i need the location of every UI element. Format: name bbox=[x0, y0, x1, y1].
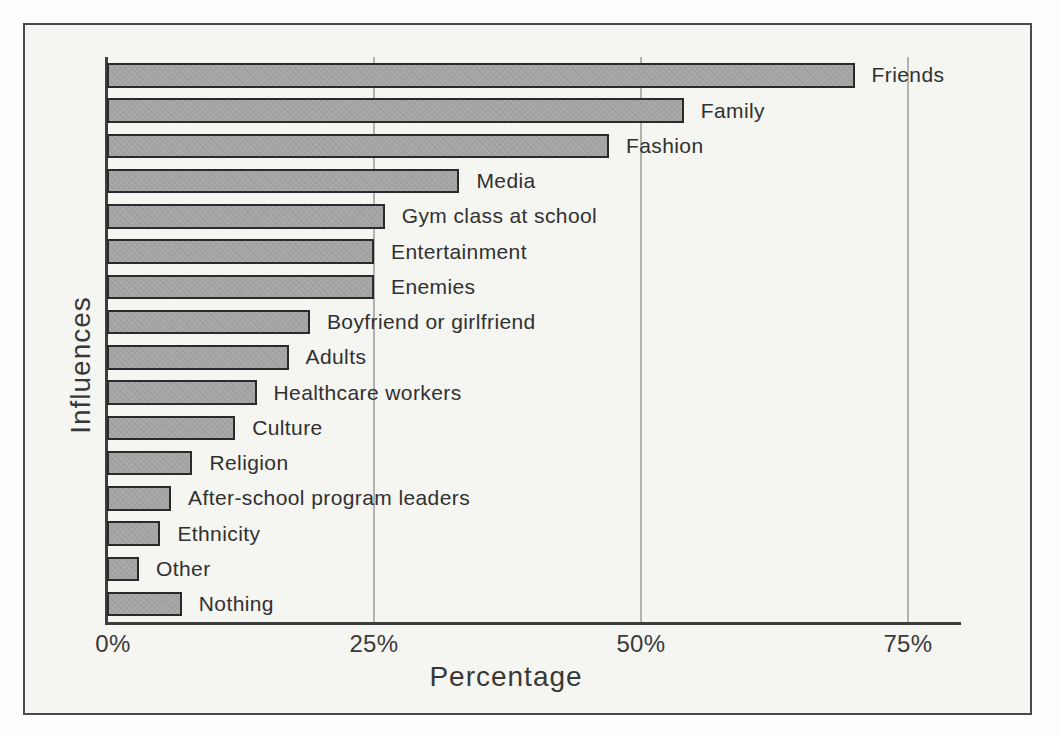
bar-label-friends: Friends bbox=[872, 61, 945, 90]
bar-label-other: Other bbox=[156, 555, 211, 584]
bar-label-adults: Adults bbox=[306, 343, 367, 372]
bar-label-ethnicity: Ethnicity bbox=[177, 519, 260, 548]
bar-label-religion: Religion bbox=[209, 449, 288, 478]
bar-label-nothing: Nothing bbox=[199, 590, 274, 619]
gridline-75 bbox=[907, 57, 909, 624]
bar-label-boyfriend-or-girlfriend: Boyfriend or girlfriend bbox=[327, 308, 536, 337]
bar-adults bbox=[107, 345, 289, 370]
bar-label-healthcare-workers: Healthcare workers bbox=[274, 378, 462, 407]
bar-other bbox=[107, 557, 139, 582]
bar-nothing bbox=[107, 592, 182, 617]
x-tick-25: 25% bbox=[349, 630, 398, 658]
plot-area: FriendsFamilyFashionMediaGym class at sc… bbox=[0, 0, 1061, 736]
x-tick-0: 0% bbox=[95, 630, 131, 658]
bar-culture bbox=[107, 416, 235, 441]
bar-boyfriend-or-girlfriend bbox=[107, 310, 310, 335]
x-tick-50: 50% bbox=[616, 630, 665, 658]
x-tick-75: 75% bbox=[883, 630, 932, 658]
bar-religion bbox=[107, 451, 192, 476]
bar-ethnicity bbox=[107, 521, 160, 546]
bar-label-media: Media bbox=[476, 167, 535, 196]
bar-label-culture: Culture bbox=[252, 414, 323, 443]
figure: FriendsFamilyFashionMediaGym class at sc… bbox=[0, 0, 1061, 736]
bar-family bbox=[107, 98, 684, 123]
bar-label-entertainment: Entertainment bbox=[391, 237, 527, 266]
bar-label-family: Family bbox=[701, 96, 765, 125]
bar-after-school-program-leaders bbox=[107, 486, 171, 511]
bar-fashion bbox=[107, 134, 609, 159]
y-axis-title: Influences bbox=[65, 296, 97, 434]
bar-enemies bbox=[107, 275, 374, 300]
bar-media bbox=[107, 169, 459, 194]
bar-friends bbox=[107, 63, 855, 88]
bar-healthcare-workers bbox=[107, 380, 257, 405]
bar-label-gym-class-at-school: Gym class at school bbox=[402, 202, 598, 231]
bar-label-fashion: Fashion bbox=[626, 132, 704, 161]
bar-label-enemies: Enemies bbox=[391, 273, 476, 302]
bar-entertainment bbox=[107, 239, 374, 264]
x-axis-line bbox=[105, 622, 961, 625]
bar-label-after-school-program-leaders: After-school program leaders bbox=[188, 484, 470, 513]
bar-gym-class-at-school bbox=[107, 204, 385, 229]
x-axis-title: Percentage bbox=[429, 661, 582, 693]
